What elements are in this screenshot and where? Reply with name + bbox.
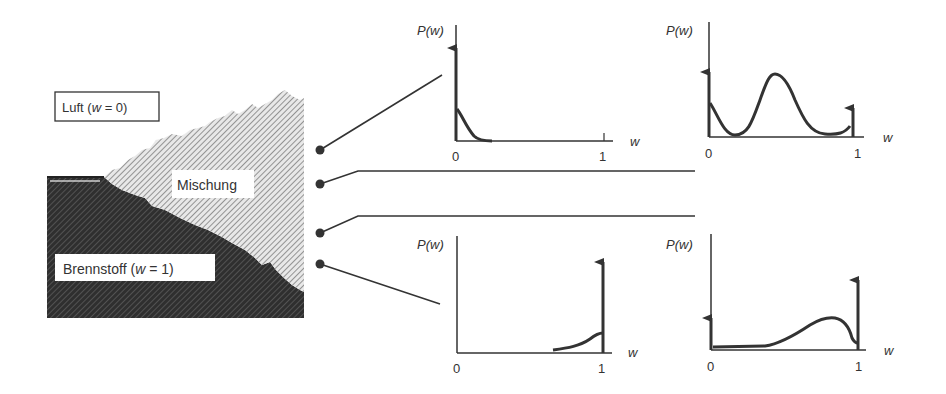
- svg-text:Mischung: Mischung: [177, 177, 237, 193]
- pdf-curve: [553, 333, 603, 350]
- probe-3: [316, 216, 696, 238]
- fuel-label: Brennstoff (w = 1): [55, 254, 215, 281]
- svg-text:Brennstoff (w = 1): Brennstoff (w = 1): [63, 261, 174, 277]
- svg-text:P(w): P(w): [666, 23, 693, 38]
- mixture-label: Mischung: [172, 170, 254, 198]
- svg-text:P(w): P(w): [417, 23, 444, 38]
- svg-text:1: 1: [598, 361, 605, 376]
- svg-text:Luft (w = 0): Luft (w = 0): [62, 100, 127, 115]
- pdf-plot-top-right: P(w) 0 1 w: [666, 22, 894, 161]
- pdf-plot-top-left: P(w) 0 1 w: [417, 23, 641, 164]
- pdf-curve: [710, 74, 850, 135]
- svg-text:w: w: [630, 134, 641, 149]
- svg-text:P(w): P(w): [417, 237, 444, 252]
- svg-text:w: w: [884, 343, 895, 358]
- probe-2: [316, 171, 696, 189]
- svg-text:w: w: [883, 130, 894, 145]
- svg-text:0: 0: [705, 146, 712, 161]
- svg-text:0: 0: [452, 149, 459, 164]
- pdf-curve: [713, 318, 858, 347]
- svg-text:0: 0: [453, 361, 460, 376]
- probe-1: [316, 75, 443, 155]
- pdf-plot-bottom-right: P(w) 0 1 w: [666, 234, 895, 374]
- svg-text:0: 0: [707, 359, 714, 374]
- svg-text:P(w): P(w): [666, 237, 693, 252]
- svg-text:1: 1: [855, 359, 862, 374]
- probe-4: [316, 260, 441, 305]
- svg-text:1: 1: [854, 146, 861, 161]
- pdf-plot-bottom-left: P(w) 0 1 w: [417, 236, 639, 376]
- svg-text:w: w: [628, 345, 639, 360]
- pdf-curve: [457, 109, 492, 141]
- air-label: Luft (w = 0): [55, 92, 159, 121]
- mixing-diagram: Luft (w = 0) Mischung Brennstoff (w = 1)…: [0, 0, 946, 394]
- svg-text:1: 1: [599, 149, 606, 164]
